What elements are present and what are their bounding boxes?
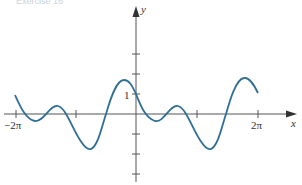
y-tick-label-1: 1 [124, 89, 130, 101]
x-axis-label: x [290, 117, 296, 129]
x-tick-label-neg-2pi: −2π [4, 119, 22, 131]
y-axis-arrow-icon [133, 6, 140, 17]
x-tick-label-2pi: 2π [251, 119, 263, 131]
function-plot: y x 1 −2π 2π [0, 0, 302, 185]
y-axis-label: y [140, 3, 146, 15]
